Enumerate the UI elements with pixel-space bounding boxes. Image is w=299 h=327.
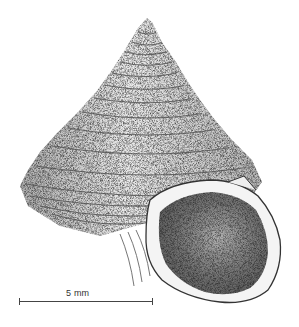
shell-aperture xyxy=(146,176,281,303)
shell-illustration xyxy=(0,0,299,327)
scale-bar-label: 5 mm xyxy=(66,288,89,298)
scale-bar xyxy=(19,301,153,302)
